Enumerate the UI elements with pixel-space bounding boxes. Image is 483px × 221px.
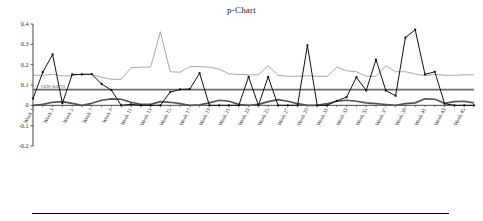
chart-title: p-Chart <box>0 5 483 15</box>
x-tick-label: Week 3 <box>42 107 55 124</box>
p-data-point <box>218 104 220 106</box>
x-tick-label: Week 9 <box>101 107 114 124</box>
center-line-annotation: CLN=0.0772 <box>41 84 66 89</box>
x-tick-label: Week 43 <box>433 107 447 127</box>
y-axis-tick-labels: 0.40.30.20.10-0.1-0.2 <box>19 20 29 149</box>
x-axis: Week 1Week 3Week 5Week 7Week 9Week 11Wee… <box>22 105 474 126</box>
x-tick-label: Week 31 <box>315 107 329 127</box>
p-data-point <box>208 104 210 106</box>
p-data-point <box>32 97 34 99</box>
p-data-point <box>149 104 151 106</box>
ucl-line <box>33 32 474 80</box>
p-data-point <box>345 96 347 98</box>
x-tick-label: Week 41 <box>413 107 427 127</box>
y-tick-label: 0.2 <box>21 61 29 68</box>
y-axis: 0.40.30.20.10-0.1-0.2 <box>19 20 33 149</box>
p-data-point <box>42 71 44 73</box>
x-tick-label: Week 13 <box>139 107 153 127</box>
p-data-point <box>434 71 436 73</box>
p-data-point <box>238 104 240 106</box>
p-data-point <box>296 104 298 106</box>
center-line-label: CLN=0.0772 <box>41 84 66 89</box>
p-data-point <box>61 102 63 104</box>
series-ucl <box>33 32 474 80</box>
x-tick-label: Week 19 <box>197 107 211 127</box>
p-data-point <box>71 73 73 75</box>
p-data-point <box>306 44 308 46</box>
p-data-point <box>159 104 161 106</box>
p-data-point <box>463 104 465 106</box>
series-p <box>33 30 474 106</box>
lcl-line <box>33 99 474 106</box>
p-data-point <box>277 104 279 106</box>
p-data-point <box>100 83 102 85</box>
p-data-point <box>247 76 249 78</box>
p-data-point <box>385 89 387 91</box>
p-data-point <box>336 100 338 102</box>
p-data-point <box>424 73 426 75</box>
p-data-point <box>453 104 455 106</box>
p-data-point <box>326 104 328 106</box>
p-data-point <box>169 91 171 93</box>
p-data-point <box>257 104 259 106</box>
p-data-point <box>189 88 191 90</box>
p-data-point <box>140 104 142 106</box>
x-tick-label: Week 21 <box>217 107 231 127</box>
p-chart-figure: p-Chart 0.40.30.20.10-0.1-0.2 Week 1Week… <box>0 0 483 221</box>
x-tick-label: Week 7 <box>81 107 94 124</box>
y-tick-label: 0.4 <box>21 20 29 27</box>
y-tick-label: 0 <box>25 101 28 108</box>
p-data-point <box>473 104 475 106</box>
p-data-point <box>51 53 53 55</box>
x-tick-label: Week 45 <box>452 107 466 127</box>
x-tick-label: Week 17 <box>178 107 192 127</box>
p-data-point <box>179 88 181 90</box>
x-axis-tick-labels: Week 1Week 3Week 5Week 7Week 9Week 11Wee… <box>22 107 466 127</box>
p-data-point <box>287 104 289 106</box>
p-data-point <box>198 72 200 74</box>
p-data-point <box>81 73 83 75</box>
p-data-point <box>316 104 318 106</box>
x-tick-label: Week 11 <box>119 107 133 127</box>
p-chart-plot: 0.40.30.20.10-0.1-0.2 Week 1Week 3Week 5… <box>0 18 483 203</box>
p-data-point <box>414 29 416 31</box>
x-tick-label: Week 27 <box>276 107 290 127</box>
x-tick-label: Week 15 <box>158 107 172 127</box>
x-tick-label: Week 33 <box>335 107 349 127</box>
x-tick-label: Week 37 <box>374 107 388 127</box>
x-tick-label: Week 5 <box>61 107 74 124</box>
x-tick-label: Week 23 <box>237 107 251 127</box>
y-tick-label: 0.1 <box>21 81 29 88</box>
p-data-point <box>130 103 132 105</box>
p-data-point <box>365 89 367 91</box>
p-line <box>33 30 474 106</box>
x-tick-label: Week 39 <box>393 107 407 127</box>
p-data-point <box>91 73 93 75</box>
y-tick-label: -0.2 <box>19 142 29 149</box>
p-data-point <box>355 76 357 78</box>
p-data-point <box>120 104 122 106</box>
series-p-markers <box>32 29 475 107</box>
x-tick-label: Week 29 <box>295 107 309 127</box>
p-data-point <box>267 76 269 78</box>
y-tick-label: 0.3 <box>21 40 29 47</box>
series-lcl <box>33 99 474 106</box>
p-data-point <box>375 58 377 60</box>
bottom-horizontal-rule <box>32 213 449 214</box>
p-data-point <box>228 104 230 106</box>
p-data-point <box>110 89 112 91</box>
p-data-point <box>394 95 396 97</box>
p-data-point <box>404 36 406 38</box>
x-tick-label: Week 25 <box>256 107 270 127</box>
x-tick-label: Week 35 <box>354 107 368 127</box>
p-data-point <box>443 103 445 105</box>
